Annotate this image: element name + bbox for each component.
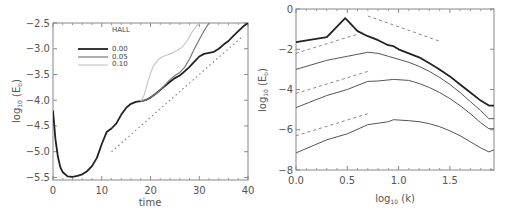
axis-ticks (296, 9, 494, 170)
x-tick-label: 1.0 (391, 175, 407, 186)
series-0-10 (141, 23, 200, 101)
y-tick-label: −8 (278, 165, 293, 176)
series-ref-slope-3 (296, 114, 368, 136)
series-ref-slope-2 (296, 71, 368, 93)
y-tick-labels: −5.5−5.0−4.5−4.0−3.5−3.0−2.5 (26, 18, 50, 183)
y-tick-label: −4.5 (26, 120, 50, 131)
legend: HALL 0.00 0.05 0.10 (78, 26, 130, 68)
x-tick-label: 0.5 (339, 175, 355, 186)
x-tick-label: 20 (144, 185, 157, 196)
x-tick-label: 40 (242, 185, 255, 196)
series-0-00 (53, 23, 248, 177)
time-series-panel: −5.5−5.0−4.5−4.0−3.5−3.0−2.5 010203040 t… (11, 18, 254, 209)
y-tick-label: −3.0 (26, 43, 50, 54)
series-0-05 (141, 23, 209, 101)
y-tick-label: −6 (278, 124, 293, 135)
x-tick-labels: 010203040 (50, 185, 255, 196)
y-tick-label: −4.0 (26, 95, 50, 106)
y-tick-label: −2.5 (26, 18, 50, 29)
y-tick-label: 0 (287, 4, 293, 15)
y-tick-label: −4 (278, 84, 293, 95)
plot-frame (296, 9, 494, 170)
x-tick-labels: 0.00.51.01.5 (288, 175, 458, 186)
y-axis-label: log10 (Eb) (257, 68, 269, 112)
series-ref-slope-upper (368, 16, 440, 41)
x-tick-label: 1.5 (442, 175, 458, 186)
x-axis-label: time (139, 197, 162, 208)
x-axis-label: log10 (k) (375, 193, 415, 205)
x-tick-label: 0 (50, 185, 56, 196)
y-tick-label: −5.0 (26, 146, 50, 157)
y-tick-label: −3.5 (26, 69, 50, 80)
spectrum-panel: 0−2−4−6−8 0.00.51.01.5 log10 (k) log10 (… (257, 4, 494, 206)
legend-entry-0: 0.00 (112, 45, 128, 53)
series-spectrum-1 (296, 18, 494, 106)
x-tick-label: 10 (95, 185, 108, 196)
data-lines (296, 16, 494, 153)
y-tick-label: −5.5 (26, 172, 50, 183)
figure: −5.5−5.0−4.5−4.0−3.5−3.0−2.5 010203040 t… (0, 0, 509, 212)
y-axis-label: log10 (Eb) (11, 79, 23, 123)
series-reference (112, 36, 244, 152)
series-spectrum-4 (296, 120, 494, 153)
legend-entry-2: 0.10 (112, 60, 128, 68)
x-tick-label: 30 (193, 185, 206, 196)
x-tick-label: 0.0 (288, 175, 304, 186)
plot-frame (53, 23, 248, 180)
axis-ticks (53, 23, 248, 180)
y-tick-label: −2 (278, 44, 293, 55)
legend-title: HALL (112, 26, 130, 34)
y-tick-labels: 0−2−4−6−8 (278, 4, 293, 176)
data-lines (53, 23, 248, 177)
